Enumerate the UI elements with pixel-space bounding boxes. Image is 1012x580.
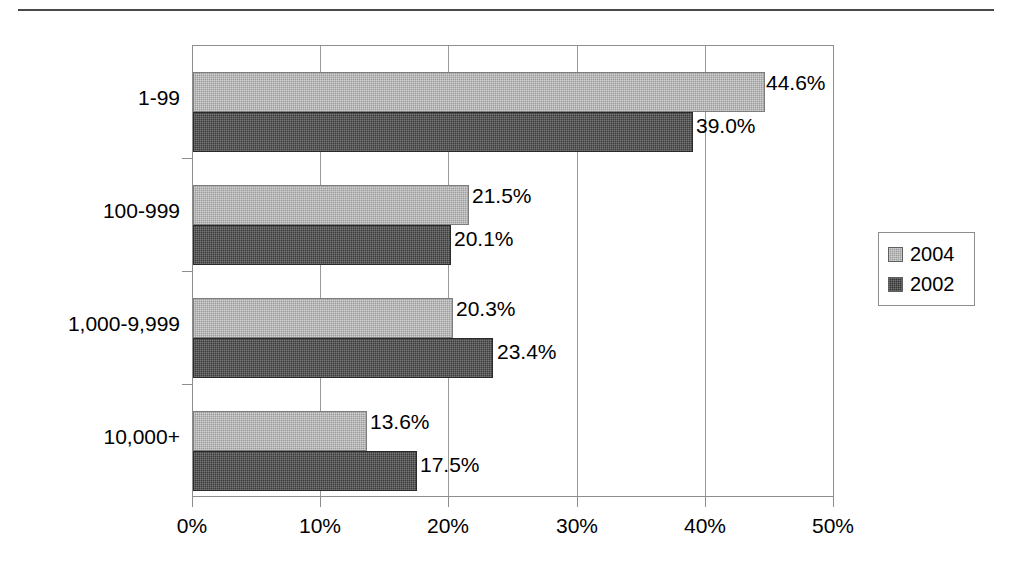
- bar-2002-1: [193, 225, 451, 265]
- x-axis-tick-4: [705, 497, 706, 507]
- value-label-2004-3: 13.6%: [370, 411, 430, 432]
- value-label-2002-1: 20.1%: [454, 228, 514, 249]
- x-axis-tick-1: [320, 497, 321, 507]
- value-label-2004-0: 44.6%: [766, 72, 826, 93]
- y-axis-label-1: 100-999: [0, 200, 180, 221]
- value-label-2002-2: 23.4%: [497, 341, 557, 362]
- legend-label-2002: 2002: [910, 274, 955, 294]
- y-axis-label-3: 10,000+: [0, 426, 180, 447]
- y-axis-category-labels: 1-99 100-999 1,000-9,999 10,000+: [0, 45, 180, 497]
- bar-2004-3: [193, 411, 367, 451]
- y-axis-label-0: 1-99: [0, 87, 180, 108]
- plot-area: [192, 45, 834, 497]
- value-label-2002-0: 39.0%: [696, 115, 756, 136]
- value-label-2004-1: 21.5%: [472, 185, 532, 206]
- x-axis-tick-2: [448, 497, 449, 507]
- legend-entry-2004: 2004: [888, 243, 955, 265]
- x-axis-label-2: 20%: [388, 515, 508, 536]
- value-label-2004-2: 20.3%: [456, 298, 516, 319]
- x-axis-tick-5: [833, 497, 834, 507]
- bar-2002-0: [193, 112, 693, 152]
- chart-legend: 2004 2002: [878, 232, 975, 306]
- legend-entry-2002: 2002: [888, 273, 955, 295]
- bar-2002-2: [193, 338, 493, 378]
- x-axis-label-3: 30%: [517, 515, 637, 536]
- y-axis-label-2: 1,000-9,999: [0, 313, 180, 334]
- legend-swatch-2004-icon: [888, 247, 903, 262]
- legend-swatch-2002-icon: [888, 277, 903, 292]
- x-axis-tick-3: [577, 497, 578, 507]
- bar-2002-3: [193, 451, 417, 491]
- x-axis-label-1: 10%: [260, 515, 380, 536]
- bar-2004-2: [193, 298, 453, 338]
- x-axis-label-5: 50%: [773, 515, 893, 536]
- x-axis-label-4: 40%: [645, 515, 765, 536]
- value-label-2002-3: 17.5%: [420, 454, 480, 475]
- bar-2004-0: [193, 72, 765, 112]
- bar-chart-figure: 1-99 100-999 1,000-9,999 10,000+: [0, 0, 1012, 580]
- x-axis-label-0: 0%: [132, 515, 252, 536]
- x-axis-tick-0: [192, 497, 193, 507]
- legend-label-2004: 2004: [910, 244, 955, 264]
- bar-2004-1: [193, 185, 469, 225]
